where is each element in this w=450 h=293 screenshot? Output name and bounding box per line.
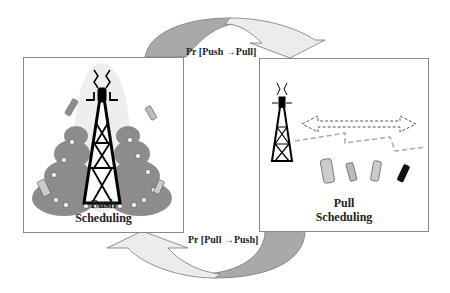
- double-arrow-icon: [302, 116, 416, 132]
- push-to-pull-probability-label: Pr [Push →Pull]: [186, 46, 256, 57]
- pull-scheduling-panel: Pull Scheduling: [259, 58, 429, 232]
- pull-title-line1: Pull: [260, 196, 428, 210]
- push-scheduling-panel: Push Scheduling: [23, 57, 184, 233]
- broadcast-tower-icon: [272, 83, 292, 161]
- push-title-line2: Scheduling: [24, 211, 183, 225]
- pull-to-push-probability-label: Pr [Pull →Push]: [188, 234, 258, 245]
- mobile-phone-icon: [320, 158, 410, 184]
- push-title-line1: Push: [24, 197, 183, 211]
- pull-title-line2: Scheduling: [260, 210, 428, 224]
- barrier-line: [295, 133, 425, 151]
